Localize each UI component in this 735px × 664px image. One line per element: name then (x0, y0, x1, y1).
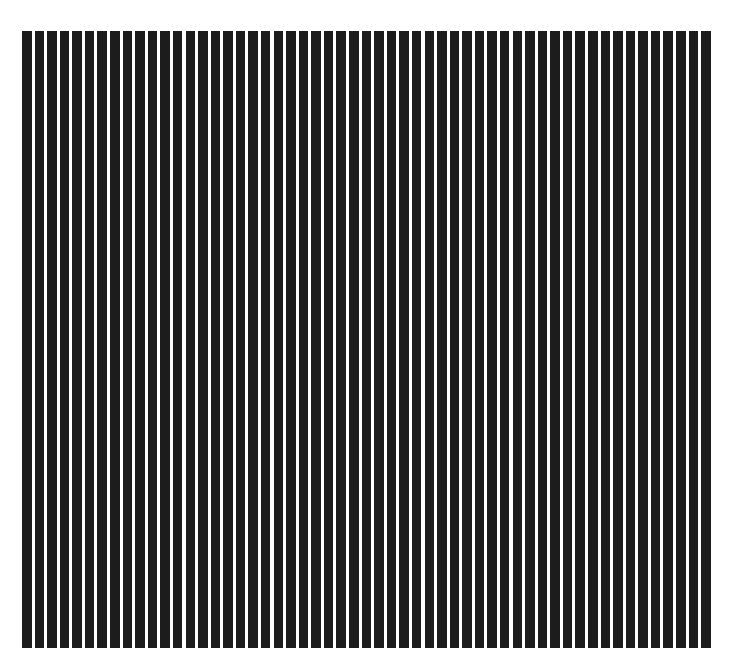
stripe-bar (513, 31, 523, 648)
stripe-bar (425, 31, 435, 648)
stripe-bar (588, 31, 598, 648)
stripe-bar (160, 31, 170, 648)
stripe-bar (198, 31, 208, 648)
stripe-bar (462, 31, 472, 648)
stripe-bar (563, 31, 573, 648)
stripe-bar (601, 31, 611, 648)
stripe-bar (72, 31, 82, 648)
stripe-bar (261, 31, 271, 648)
stripe-bar (123, 31, 133, 648)
stripe-bar (286, 31, 296, 648)
stripe-bar (223, 31, 233, 648)
stripe-bar (374, 31, 384, 648)
stripe-bar (22, 31, 32, 648)
stripe-bar (689, 31, 699, 648)
stripe-bar (500, 31, 510, 648)
stripe-bar (60, 31, 70, 648)
stripe-bar (538, 31, 548, 648)
stripe-bar (211, 31, 221, 648)
stripe-bar (676, 31, 686, 648)
stripe-bar (336, 31, 346, 648)
stripe-bar (236, 31, 246, 648)
stripe-bar (487, 31, 497, 648)
vertical-stripe-pattern (22, 31, 711, 648)
stripe-bar (97, 31, 107, 648)
stripe-bar (47, 31, 57, 648)
stripe-bar (311, 31, 321, 648)
stripe-bar (525, 31, 535, 648)
stripe-bar (110, 31, 120, 648)
stripe-bar (550, 31, 560, 648)
stripe-bar (613, 31, 623, 648)
stripe-bar (186, 31, 196, 648)
stripe-bar (412, 31, 422, 648)
stripe-bar (450, 31, 460, 648)
stripe-bar (35, 31, 45, 648)
stripe-bar (274, 31, 284, 648)
stripe-bar (399, 31, 409, 648)
stripe-bar (173, 31, 183, 648)
stripe-bar (701, 31, 711, 648)
stripe-bar (626, 31, 636, 648)
stripe-bar (135, 31, 145, 648)
stripe-bar (362, 31, 372, 648)
stripe-bar (349, 31, 359, 648)
stripe-bar (85, 31, 95, 648)
stripe-bar (387, 31, 397, 648)
stripe-bar (475, 31, 485, 648)
stripe-bar (248, 31, 258, 648)
stripe-bar (651, 31, 661, 648)
stripe-bar (148, 31, 158, 648)
stripe-bar (324, 31, 334, 648)
stripe-bar (663, 31, 673, 648)
stripe-bar (299, 31, 309, 648)
stripe-bar (575, 31, 585, 648)
stripe-bar (437, 31, 447, 648)
stripe-bar (638, 31, 648, 648)
